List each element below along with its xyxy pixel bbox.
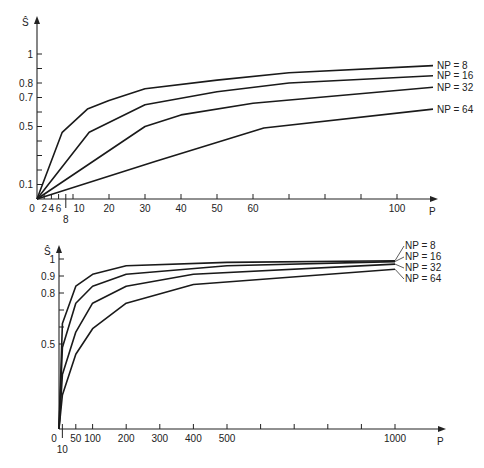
- y-tick-label: 0.8: [19, 78, 33, 89]
- y-tick-label: 0.1: [19, 179, 33, 190]
- y-axis-label: Ŝ: [22, 16, 29, 28]
- series-line-np32: [37, 87, 433, 199]
- series-line-np64: [59, 269, 395, 429]
- x-tick-label: 40: [175, 203, 187, 214]
- x-tick-label: 10: [73, 203, 85, 214]
- legend-label: NP = 32: [437, 82, 474, 93]
- x-tick-label: 50: [211, 203, 223, 214]
- y-tick-label: 0.5: [19, 121, 33, 132]
- x-tick-label: 1000: [384, 433, 407, 444]
- legend-label: NP = 16: [405, 251, 442, 262]
- x-tick-label: 30: [139, 203, 151, 214]
- series-line-np8: [37, 66, 433, 199]
- x-tick-label: 10: [57, 444, 69, 455]
- y-axis-arrow-icon: [56, 245, 62, 253]
- legend-label: NP = 8: [405, 240, 436, 251]
- legend-label: NP = 64: [405, 273, 442, 284]
- y-tick-label: 1: [49, 254, 55, 265]
- legend-leader-line: [395, 257, 404, 262]
- x-tick-label: 200: [118, 433, 135, 444]
- chart-bottom-speedup-vs-p-large: ŜP0.50.80.91010501002003004005001000NP =…: [41, 240, 446, 455]
- series-line-np16: [59, 262, 395, 429]
- y-tick-label: 1: [27, 49, 33, 60]
- x-axis-label: P: [437, 436, 444, 447]
- x-tick-label: 300: [151, 433, 168, 444]
- y-tick-label: 0.7: [19, 92, 33, 103]
- chart-top-speedup-vs-p-small: ŜP0.10.50.70.8102468102030405060100NP = …: [19, 16, 474, 225]
- speedup-charts: ŜP0.10.50.70.8102468102030405060100NP = …: [0, 0, 484, 468]
- x-tick-label: 60: [247, 203, 259, 214]
- legend-leader-line: [395, 269, 404, 279]
- x-tick-label: 100: [84, 433, 101, 444]
- x-tick-label: 0: [51, 433, 57, 444]
- x-tick-label: 400: [185, 433, 202, 444]
- y-tick-label: 0.9: [41, 271, 55, 282]
- legend-label: NP = 16: [437, 70, 474, 81]
- y-tick-label: 0.8: [41, 288, 55, 299]
- y-axis-arrow-icon: [34, 16, 40, 24]
- series-line-np32: [59, 264, 395, 429]
- x-tick-label: 20: [103, 203, 115, 214]
- x-axis-arrow-icon: [438, 426, 446, 432]
- series-line-np64: [37, 109, 433, 199]
- x-tick-label: 4: [49, 203, 55, 214]
- series-line-np8: [59, 261, 395, 429]
- x-tick-label: 0: [29, 203, 35, 214]
- x-tick-label: 8: [63, 214, 69, 225]
- legend-label: NP = 64: [437, 104, 474, 115]
- x-tick-label: 100: [389, 203, 406, 214]
- x-tick-label: 500: [219, 433, 236, 444]
- x-axis-arrow-icon: [430, 196, 438, 202]
- x-tick-label: 2: [41, 203, 47, 214]
- y-tick-label: 0.5: [41, 339, 55, 350]
- legend-leader-line: [395, 246, 404, 261]
- x-tick-label: 50: [70, 433, 82, 444]
- legend-label: NP = 32: [405, 262, 442, 273]
- figure: ŜP0.10.50.70.8102468102030405060100NP = …: [0, 0, 484, 468]
- x-tick-label: 6: [56, 203, 62, 214]
- x-axis-label: P: [429, 206, 436, 217]
- legend-leader-line: [395, 264, 404, 268]
